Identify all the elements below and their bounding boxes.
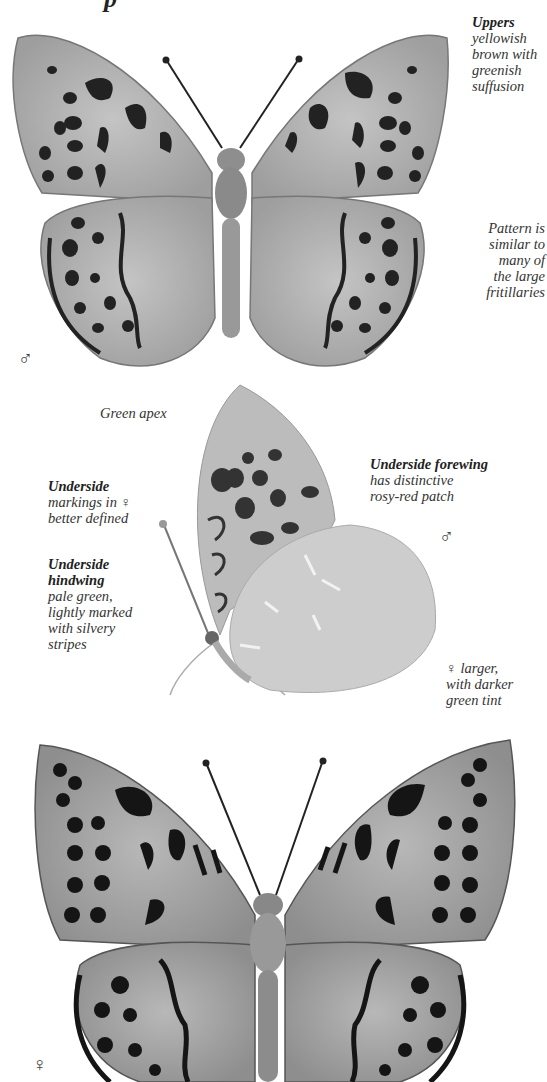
female-symbol: ♀ <box>32 1054 47 1074</box>
annotation-line: the large <box>481 268 545 284</box>
annotation-title: Uppers <box>472 14 537 30</box>
pattern-annotation: Pattern is similar to many of the large … <box>481 220 545 300</box>
annotation-line: brown with <box>472 46 537 62</box>
annotation-line: stripes <box>48 636 132 652</box>
annotation-line: ♀ larger, <box>446 660 513 676</box>
female-larger-annotation: ♀ larger, with darker green tint <box>446 660 513 708</box>
annotation-line: many of <box>481 252 545 268</box>
male-upperside-illustration <box>0 28 450 383</box>
annotation-line: Green apex <box>100 405 167 421</box>
annotation-line: yellowish <box>472 30 537 46</box>
annotation-line: greenish <box>472 62 537 78</box>
uppers-annotation: Uppers yellowish brown with greenish suf… <box>472 14 537 94</box>
annotation-title: hindwing <box>48 572 132 588</box>
annotation-line: pale green, <box>48 588 132 604</box>
annotation-line: better defined <box>48 510 131 526</box>
annotation-line: with silvery <box>48 620 132 636</box>
underside-forewing-annotation: Underside forewing has distinctive rosy-… <box>370 456 488 504</box>
annotation-line: rosy-red patch <box>370 488 488 504</box>
annotation-line: lightly marked <box>48 604 132 620</box>
annotation-line: Pattern is <box>481 220 545 236</box>
male-symbol: ♂ <box>439 526 454 546</box>
annotation-line: with darker <box>446 676 513 692</box>
annotation-line: green tint <box>446 692 513 708</box>
annotation-line: similar to <box>481 236 545 252</box>
field-guide-page: p <box>0 0 547 1082</box>
underside-markings-annotation: Underside markings in ♀ better defined <box>48 478 131 526</box>
annotation-title: Underside <box>48 478 131 494</box>
annotation-title: Underside forewing <box>370 456 488 472</box>
page-heading-fragment: p <box>104 0 117 14</box>
male-symbol: ♂ <box>18 348 33 368</box>
annotation-line: suffusion <box>472 78 537 94</box>
annotation-line: fritillaries <box>481 284 545 300</box>
annotation-line: has distinctive <box>370 472 488 488</box>
annotation-title: Underside <box>48 556 132 572</box>
male-underside-illustration <box>150 380 450 700</box>
green-apex-annotation: Green apex <box>100 405 167 421</box>
underside-hindwing-annotation: Underside hindwing pale green, lightly m… <box>48 556 132 652</box>
female-upperside-illustration <box>30 725 530 1082</box>
annotation-line: markings in ♀ <box>48 494 131 510</box>
